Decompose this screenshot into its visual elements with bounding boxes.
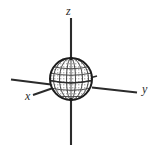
axis-label-x: x bbox=[25, 90, 30, 102]
axes-diagram bbox=[0, 0, 159, 157]
gridded-sphere-icon bbox=[50, 58, 92, 100]
figure-canvas: z y x bbox=[0, 0, 159, 157]
axis-label-z: z bbox=[66, 5, 71, 17]
axis-label-y: y bbox=[142, 83, 147, 95]
